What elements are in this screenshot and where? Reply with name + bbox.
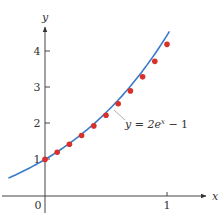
- y-tick-label-4: 4: [34, 45, 41, 58]
- data-point: [54, 149, 60, 155]
- data-point: [42, 157, 48, 163]
- y-ticks: [45, 51, 50, 159]
- annotation-leader-line: [114, 110, 125, 120]
- data-point: [128, 88, 134, 94]
- data-point: [152, 59, 158, 65]
- data-point: [79, 133, 85, 139]
- x-axis-label: x: [212, 190, 219, 203]
- x-tick-label-1: 1: [164, 199, 171, 212]
- data-point: [115, 101, 121, 107]
- data-point: [103, 113, 109, 119]
- y-tick-label-2: 2: [34, 117, 41, 130]
- origin-label: 0: [35, 199, 42, 212]
- data-point: [91, 123, 97, 129]
- data-point: [140, 74, 146, 80]
- chart: 1 2 3 4 0 1 y x y = 2ex − 1: [0, 0, 222, 218]
- data-point: [67, 141, 73, 147]
- curve-label: y = 2ex − 1: [124, 118, 188, 131]
- y-axis-label: y: [41, 11, 49, 24]
- data-point: [164, 42, 170, 48]
- y-tick-label-3: 3: [34, 81, 41, 94]
